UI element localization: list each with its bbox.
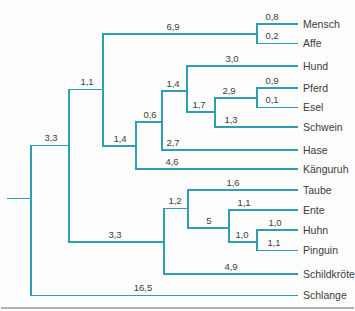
taxon-label: Schildkröte (303, 268, 355, 281)
internal-branch-line (69, 241, 164, 243)
leaf-branch-line (136, 168, 298, 170)
taxon-label: Affe (303, 37, 322, 50)
branch-length-label: 3,0 (225, 53, 238, 64)
branch-length-label: 4,6 (165, 156, 178, 167)
branch-length-label: 1,2 (168, 195, 181, 206)
branch-length-label: 3,3 (108, 229, 121, 240)
internal-branch-line (229, 241, 257, 243)
branch-length-label: 0,1 (265, 94, 278, 105)
branch-length-label: 1,7 (192, 99, 205, 110)
internal-branch-line (136, 121, 162, 123)
branch-length-label: 6,9 (166, 21, 179, 32)
branch-length-label: 2,9 (222, 85, 235, 96)
branch-length-label: 0,8 (265, 11, 278, 22)
branch-length-label: 5 (206, 215, 211, 226)
branch-length-label: 0,6 (143, 109, 156, 120)
branch-length-label: 3,3 (44, 132, 57, 143)
leaf-branch-line (162, 149, 298, 151)
leaf-branch-line (164, 273, 298, 275)
taxon-label: Ente (303, 204, 325, 217)
branch-length-label: 0,2 (265, 30, 278, 41)
leaf-branch-line (257, 250, 298, 252)
internal-branch-line (31, 145, 69, 147)
internal-branch-line (69, 89, 103, 91)
leaf-branch-line (257, 87, 298, 89)
leaf-branch-line (257, 43, 298, 45)
branch-length-label: 1,4 (113, 133, 126, 144)
branch-length-label: 4,9 (224, 261, 237, 272)
leaf-branch-line (188, 189, 298, 191)
branch-length-label: 1,3 (224, 114, 237, 125)
node-connector (256, 229, 258, 251)
taxon-label: Schlange (303, 289, 347, 302)
taxon-label: Hase (303, 144, 328, 157)
internal-branch-line (103, 145, 136, 147)
branch-length-label: 1,4 (166, 78, 179, 89)
baseline-rule (1, 307, 354, 309)
node-connector (228, 209, 230, 243)
phylogenetic-tree: 6,91,11,42,91,70,63,31,41,251,03,30,8Men… (0, 0, 355, 311)
branch-length-label: 1,1 (267, 237, 280, 248)
leaf-branch-line (257, 229, 298, 231)
branch-length-label: 1,0 (268, 217, 281, 228)
branch-length-label: 1,1 (237, 197, 250, 208)
taxon-label: Känguruh (303, 163, 349, 176)
taxon-label: Hund (303, 60, 328, 73)
internal-branch-line (103, 33, 257, 35)
taxon-label: Huhn (303, 224, 328, 237)
taxon-label: Schwein (303, 121, 343, 134)
leaf-branch-line (257, 107, 298, 109)
node-connector (68, 89, 70, 243)
taxon-label: Pinguin (303, 244, 338, 257)
internal-branch-line (164, 208, 188, 210)
taxon-label: Mensch (303, 18, 340, 31)
taxon-label: Esel (303, 101, 323, 114)
taxon-label: Taube (303, 184, 332, 197)
internal-branch-line (162, 90, 187, 92)
branch-length-label: 1,6 (226, 177, 239, 188)
internal-branch-line (187, 111, 215, 113)
internal-branch-line (215, 97, 257, 99)
branch-length-label: 1,0 (235, 229, 248, 240)
taxon-label: Pferd (303, 82, 328, 95)
branch-length-label: 2,7 (166, 137, 179, 148)
branch-length-label: 0,9 (265, 75, 278, 86)
branch-length-label: 1,1 (80, 76, 93, 87)
leaf-branch-line (257, 23, 298, 25)
leaf-branch-line (187, 65, 298, 67)
root-branch-line (7, 198, 31, 200)
internal-branch-line (188, 227, 229, 229)
leaf-branch-line (229, 209, 298, 211)
leaf-branch-line (215, 126, 298, 128)
node-connector (186, 65, 188, 113)
branch-length-label: 16,5 (134, 282, 153, 293)
node-connector (30, 145, 32, 297)
leaf-branch-line (31, 295, 298, 297)
